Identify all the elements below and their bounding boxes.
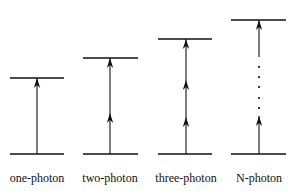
label-one-photon: one-photon [10, 171, 65, 186]
ellipsis-dot [258, 107, 260, 109]
label-two-photon: two-photon [82, 171, 137, 186]
ellipsis-dot [258, 97, 260, 99]
ellipsis-dot [258, 66, 260, 68]
ellipsis-dot [258, 76, 260, 78]
label-three-photon: three-photon [155, 171, 216, 186]
photon-absorption-diagram [0, 0, 296, 191]
ellipsis-dot [258, 86, 260, 88]
label-n-photon: N-photon [236, 171, 282, 186]
